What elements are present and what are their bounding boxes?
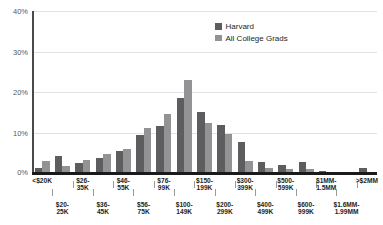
bar-harvard [55, 156, 63, 173]
chart-legend: Harvard All College Grads [215, 22, 288, 45]
bar-harvard [156, 126, 164, 173]
bar-group [93, 11, 113, 173]
bar-group [52, 11, 72, 173]
legend-item-harvard: Harvard [215, 22, 288, 31]
bar-group [316, 11, 336, 173]
bar-allgrads [164, 114, 172, 173]
bar-harvard [96, 158, 104, 173]
bar-harvard [197, 112, 205, 173]
bar-allgrads [103, 154, 111, 173]
bar-series-container [32, 11, 377, 173]
x-axis-separator-tick [215, 189, 216, 196]
y-tick-0: 0% [2, 168, 28, 177]
bar-harvard [116, 151, 124, 173]
bar-group [296, 11, 316, 173]
bar-harvard [177, 98, 185, 173]
bar-harvard [217, 125, 225, 173]
legend-swatch-icon-all-college-grads [215, 35, 222, 42]
legend-label-all-college-grads: All College Grads [226, 34, 288, 43]
x-axis-label: >$2MM [343, 177, 383, 184]
x-axis-labels: <$20K$20-25K$26-35K$36-45K$46-55K$56-75K… [32, 177, 377, 225]
x-axis-separator-tick [336, 189, 337, 196]
bar-group [336, 11, 356, 173]
y-tick-20: 20% [2, 88, 28, 97]
plot-area [32, 11, 377, 173]
x-axis-separator-tick [133, 189, 134, 196]
bar-allgrads [144, 128, 152, 173]
bar-group [133, 11, 153, 173]
x-axis-separator-tick [255, 189, 256, 196]
legend-item-all-college-grads: All College Grads [215, 34, 288, 43]
x-axis-line [32, 172, 377, 175]
bar-group [154, 11, 174, 173]
x-axis-label: $1.6MM-1.99MM [323, 201, 371, 216]
bar-group [194, 11, 214, 173]
bar-group [174, 11, 194, 173]
y-axis-line [32, 11, 34, 173]
x-axis-separator-tick [174, 189, 175, 196]
x-axis-separator-tick [52, 189, 53, 196]
legend-label-harvard: Harvard [226, 22, 254, 31]
bar-group [73, 11, 93, 173]
y-tick-40: 40% [2, 7, 28, 16]
bar-allgrads [225, 134, 233, 173]
bar-allgrads [123, 149, 131, 173]
bar-group [357, 11, 377, 173]
bar-group [32, 11, 52, 173]
bar-allgrads [205, 123, 213, 173]
bar-allgrads [184, 80, 192, 173]
y-tick-30: 30% [2, 48, 28, 57]
x-axis-separator-tick [296, 189, 297, 196]
bar-harvard [136, 135, 144, 173]
y-tick-10: 10% [2, 129, 28, 138]
bar-harvard [238, 142, 246, 173]
x-axis-separator-tick [93, 189, 94, 196]
legend-swatch-icon-harvard [215, 23, 222, 30]
income-distribution-chart: 40% 30% 20% 10% 0% Harvard All College G… [0, 0, 383, 225]
bar-group [113, 11, 133, 173]
